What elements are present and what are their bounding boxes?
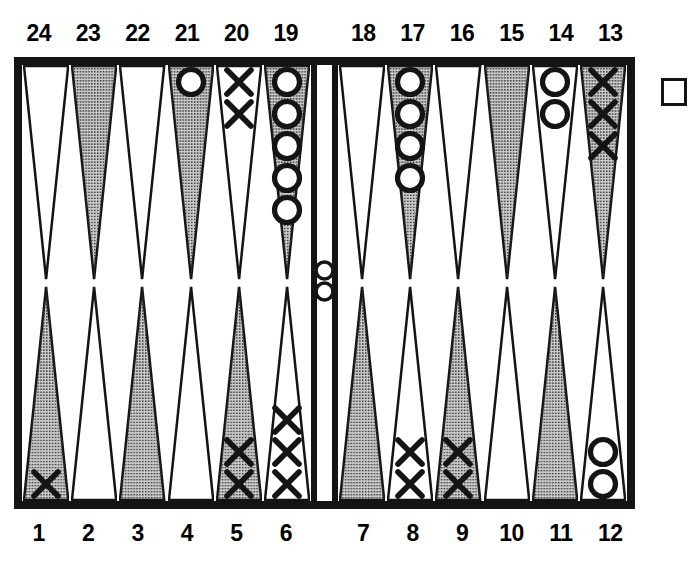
checker-stack-19[interactable] <box>263 66 311 226</box>
checker-x[interactable] <box>270 403 304 437</box>
point-22[interactable] <box>118 65 166 280</box>
checker-x[interactable] <box>441 467 475 501</box>
point-8[interactable] <box>386 286 434 501</box>
point-3[interactable] <box>118 286 166 501</box>
checker-stack-1[interactable] <box>22 468 70 500</box>
point-triangle-10 <box>484 286 530 501</box>
checker-o[interactable] <box>270 65 304 99</box>
checker-o[interactable] <box>586 467 620 501</box>
checker-stack-14[interactable] <box>531 66 579 130</box>
point-1[interactable] <box>22 286 70 501</box>
point-triangle-23 <box>71 65 117 280</box>
point-number-22: 22 <box>113 18 162 52</box>
point-9[interactable] <box>434 286 482 501</box>
point-number-2: 2 <box>63 518 112 552</box>
checker-x[interactable] <box>586 65 620 99</box>
point-number-12: 12 <box>586 518 635 552</box>
point-19[interactable] <box>263 65 311 280</box>
point-4[interactable] <box>167 286 215 501</box>
point-6[interactable] <box>263 286 311 501</box>
checker-stack-12[interactable] <box>579 436 627 500</box>
point-15[interactable] <box>483 65 531 280</box>
point-triangle-22 <box>119 65 165 280</box>
checker-x[interactable] <box>222 65 256 99</box>
point-14[interactable] <box>531 65 579 280</box>
point-triangle-4 <box>168 286 214 501</box>
point-number-4: 4 <box>162 518 211 552</box>
point-16[interactable] <box>434 65 482 280</box>
point-number-3: 3 <box>113 518 162 552</box>
point-triangle-18 <box>339 65 385 280</box>
checker-o[interactable] <box>393 97 427 131</box>
checker-o[interactable] <box>393 65 427 99</box>
checker-stack-8[interactable] <box>386 436 434 500</box>
checker-x[interactable] <box>222 97 256 131</box>
point-number-16: 16 <box>437 18 486 52</box>
point-5[interactable] <box>215 286 263 501</box>
point-number-9: 9 <box>437 518 486 552</box>
checker-x[interactable] <box>586 129 620 163</box>
checker-o[interactable] <box>538 65 572 99</box>
quadrant-bottom-left <box>22 286 311 501</box>
checker-x[interactable] <box>586 97 620 131</box>
point-triangle-15 <box>484 65 530 280</box>
bottom-number-bar-gap <box>311 518 339 552</box>
point-number-23: 23 <box>63 18 112 52</box>
backgammon-diagram: 24 23 22 21 20 19 18 17 16 15 14 13 <box>0 0 691 562</box>
checker-x[interactable] <box>441 435 475 469</box>
point-number-17: 17 <box>388 18 437 52</box>
point-triangle-24 <box>23 65 69 280</box>
checker-x[interactable] <box>29 467 63 501</box>
bar-checker-stack[interactable] <box>317 260 332 302</box>
checker-o[interactable] <box>393 161 427 195</box>
point-number-1: 1 <box>14 518 63 552</box>
checker-x[interactable] <box>393 435 427 469</box>
point-18[interactable] <box>338 65 386 280</box>
checker-stack-5[interactable] <box>215 436 263 500</box>
top-right-numbers: 18 17 16 15 14 13 <box>339 18 636 52</box>
bar[interactable] <box>311 65 338 501</box>
checker-o[interactable] <box>270 193 304 227</box>
checker-stack-20[interactable] <box>215 66 263 130</box>
top-number-bar-gap <box>311 18 339 52</box>
point-2[interactable] <box>70 286 118 501</box>
checker-o[interactable] <box>270 161 304 195</box>
bear-off-tray[interactable] <box>661 78 687 106</box>
point-triangle-2 <box>71 286 117 501</box>
checker-stack-6[interactable] <box>263 404 311 500</box>
point-number-6: 6 <box>261 518 310 552</box>
checker-o[interactable] <box>538 97 572 131</box>
point-11[interactable] <box>531 286 579 501</box>
point-7[interactable] <box>338 286 386 501</box>
checker-o[interactable] <box>270 129 304 163</box>
checker-stack-17[interactable] <box>386 66 434 194</box>
quadrant-top-left <box>22 65 311 280</box>
point-13[interactable] <box>579 65 627 280</box>
checker-stack-21[interactable] <box>167 66 215 98</box>
point-20[interactable] <box>215 65 263 280</box>
checker-stack-13[interactable] <box>579 66 627 162</box>
bottom-left-numbers: 1 2 3 4 5 6 <box>14 518 311 552</box>
point-21[interactable] <box>167 65 215 280</box>
point-triangle-3 <box>119 286 165 501</box>
checker-o[interactable] <box>393 129 427 163</box>
point-number-24: 24 <box>14 18 63 52</box>
checker-x[interactable] <box>222 435 256 469</box>
checker-x[interactable] <box>393 467 427 501</box>
checker-x[interactable] <box>222 467 256 501</box>
quadrant-bottom-right <box>338 286 627 501</box>
point-17[interactable] <box>386 65 434 280</box>
checker-o[interactable] <box>313 280 336 303</box>
checker-o[interactable] <box>174 65 208 99</box>
checker-x[interactable] <box>270 435 304 469</box>
point-12[interactable] <box>579 286 627 501</box>
point-23[interactable] <box>70 65 118 280</box>
checker-o[interactable] <box>313 259 336 282</box>
checker-x[interactable] <box>270 467 304 501</box>
checker-o[interactable] <box>586 435 620 469</box>
point-24[interactable] <box>22 65 70 280</box>
checker-o[interactable] <box>270 97 304 131</box>
point-number-20: 20 <box>212 18 261 52</box>
point-10[interactable] <box>483 286 531 501</box>
checker-stack-9[interactable] <box>434 436 482 500</box>
